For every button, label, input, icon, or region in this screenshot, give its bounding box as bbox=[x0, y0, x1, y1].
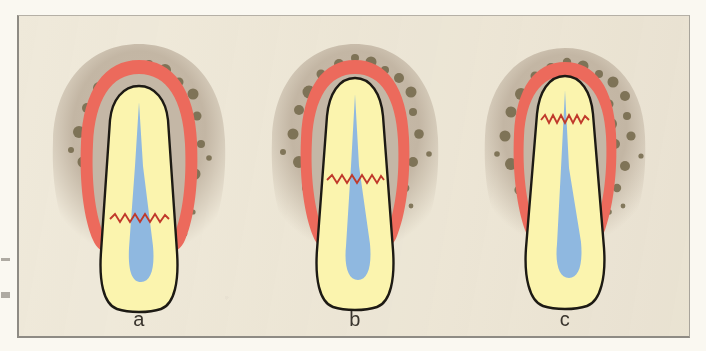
illustration-plate: a bbox=[17, 15, 690, 338]
tooth-c bbox=[526, 76, 605, 309]
tooth-b bbox=[317, 78, 394, 310]
panel-b: b bbox=[243, 16, 467, 338]
tooth-a bbox=[101, 86, 178, 312]
margin-caption-mark bbox=[1, 258, 10, 261]
panel-a: a bbox=[27, 16, 251, 338]
figure-page: a bbox=[0, 0, 706, 351]
panel-label-c: c bbox=[453, 308, 677, 331]
panel-c: c bbox=[453, 16, 677, 338]
tooth-diagram-a bbox=[27, 16, 251, 338]
panel-label-b: b bbox=[243, 308, 467, 331]
panel-label-a: a bbox=[27, 308, 251, 331]
tooth-diagram-b bbox=[243, 16, 467, 338]
tooth-diagram-c bbox=[453, 16, 677, 338]
margin-caption-mark bbox=[1, 292, 10, 298]
